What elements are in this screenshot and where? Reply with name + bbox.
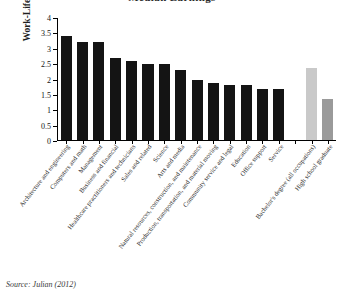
bar-slot: [271, 18, 287, 140]
source-caption: Source: Julian (2012): [6, 280, 76, 289]
bar-slot: [140, 18, 156, 140]
bar: [77, 42, 88, 140]
y-tick-label: 1: [47, 106, 51, 115]
bar: [159, 64, 170, 140]
y-axis-title: Work-Life Earnings, in $Millions: [22, 0, 36, 42]
bar-slot: [303, 18, 319, 140]
bar-slot: [107, 18, 123, 140]
bar: [257, 89, 268, 140]
x-axis-label: Bachelor's degree (all occupations): [254, 143, 316, 220]
bar: [142, 64, 153, 140]
bar: [61, 36, 72, 140]
y-tick-mark: [53, 80, 57, 81]
bar-slot: [156, 18, 172, 140]
chart-title: Median Earnings: [0, 0, 344, 3]
bar-slot: [173, 18, 189, 140]
bar: [322, 99, 333, 140]
bar: [273, 89, 284, 140]
bar-slot-empty: [287, 18, 303, 140]
y-tick-mark: [53, 141, 57, 142]
bar-slot: [205, 18, 221, 140]
bar: [110, 58, 121, 140]
bar-slot: [123, 18, 139, 140]
y-tick-mark: [53, 49, 57, 50]
bar-slot: [222, 18, 238, 140]
bar-slot: [254, 18, 270, 140]
y-tick-label: 4: [47, 14, 51, 23]
bar-slot: [58, 18, 74, 140]
y-tick-label: 0.5: [41, 121, 51, 130]
plot-area: 00.511.522.533.54: [57, 18, 336, 141]
bar: [224, 85, 235, 140]
bar-slot: [74, 18, 90, 140]
y-tick-mark: [53, 95, 57, 96]
y-tick-label: 3: [47, 44, 51, 53]
x-axis-labels: Architecture and engineeringComputers an…: [57, 143, 336, 261]
bar: [306, 68, 317, 140]
x-axis-label: Service: [266, 143, 284, 163]
y-tick-label: 2.5: [41, 60, 51, 69]
y-tick-mark: [53, 33, 57, 34]
bar-slot: [238, 18, 254, 140]
bar: [241, 85, 252, 140]
y-tick-mark: [53, 18, 57, 19]
y-tick-label: 0: [47, 137, 51, 146]
bar: [126, 61, 137, 140]
bar-slot: [91, 18, 107, 140]
y-tick-mark: [53, 126, 57, 127]
bar-slot: [320, 18, 336, 140]
y-tick-label: 3.5: [41, 29, 51, 38]
bar-slot: [189, 18, 205, 140]
bar: [93, 42, 104, 140]
bar: [175, 70, 186, 140]
y-tick-label: 2: [47, 75, 51, 84]
y-tick-mark: [53, 64, 57, 65]
bar: [192, 80, 203, 140]
bar-series: [58, 18, 336, 140]
bar: [208, 83, 219, 140]
y-tick-mark: [53, 110, 57, 111]
y-tick-label: 1.5: [41, 90, 51, 99]
